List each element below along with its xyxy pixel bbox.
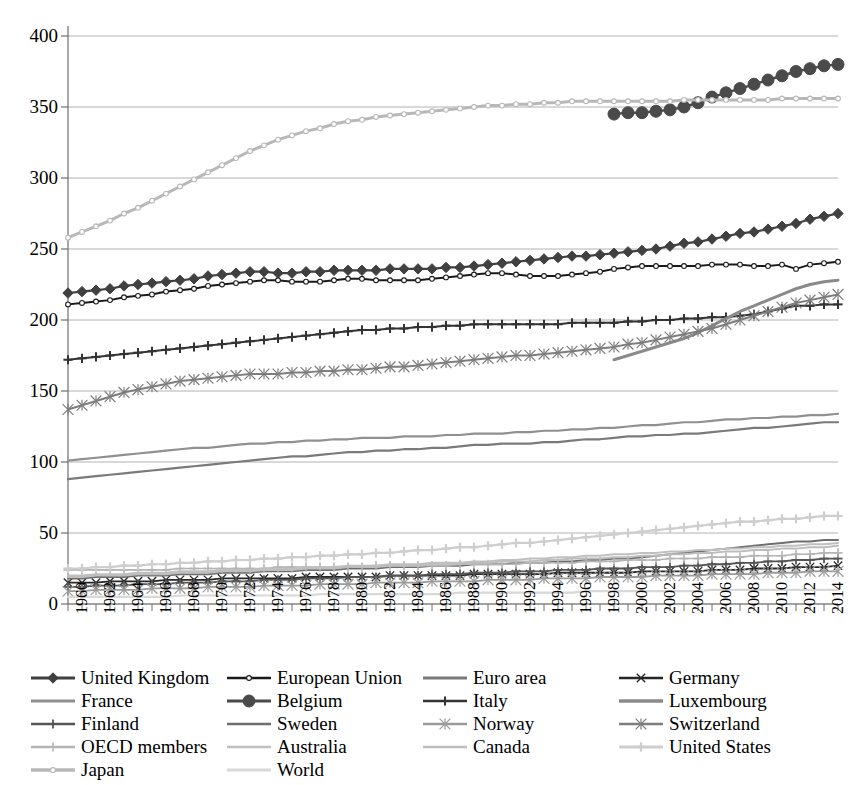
x-tick-label: 1976 xyxy=(298,582,314,614)
x-tick-label: 1972 xyxy=(242,582,258,614)
data-point xyxy=(780,96,785,101)
legend-label: United States xyxy=(669,737,771,756)
data-point xyxy=(514,272,519,277)
data-point xyxy=(248,149,253,154)
legend-swatch-icon xyxy=(422,717,468,731)
data-point xyxy=(497,540,506,549)
data-point xyxy=(805,550,814,559)
legend-item[interactable]: Belgium xyxy=(226,689,422,712)
y-tick-label: 300 xyxy=(10,168,58,187)
data-point xyxy=(108,218,113,223)
data-point xyxy=(220,163,225,168)
y-tick-label: 0 xyxy=(10,594,58,613)
data-point xyxy=(763,224,773,234)
data-point xyxy=(119,281,129,291)
data-point xyxy=(612,266,617,271)
data-point xyxy=(622,107,634,119)
legend-item[interactable]: United States xyxy=(618,735,828,758)
legend-item[interactable]: Switzerland xyxy=(618,712,828,735)
data-point xyxy=(385,264,395,274)
data-point xyxy=(220,282,225,287)
data-point xyxy=(584,99,589,104)
data-point xyxy=(791,550,800,559)
legend-item[interactable]: European Union xyxy=(226,666,422,689)
data-point xyxy=(206,170,211,175)
legend-swatch-icon xyxy=(30,694,76,708)
data-point xyxy=(693,521,702,530)
data-point xyxy=(664,104,676,116)
data-point xyxy=(245,555,254,564)
data-point xyxy=(63,564,72,573)
data-point xyxy=(276,278,281,283)
data-point xyxy=(416,278,421,283)
data-point xyxy=(570,272,575,277)
data-point xyxy=(693,554,702,563)
data-point xyxy=(416,110,421,115)
data-point xyxy=(161,345,170,354)
data-point xyxy=(147,278,157,288)
x-tick-label: 2014 xyxy=(830,582,846,614)
data-point xyxy=(623,528,632,537)
data-point xyxy=(636,742,645,751)
data-point xyxy=(654,99,659,104)
data-point xyxy=(581,251,591,261)
y-tick-label: 250 xyxy=(10,239,58,258)
legend-item[interactable]: Finland xyxy=(30,712,226,735)
legend-item[interactable]: United Kingdom xyxy=(30,666,226,689)
legend-item[interactable]: Canada xyxy=(422,735,618,758)
legend-item[interactable]: Sweden xyxy=(226,712,422,735)
legend-item[interactable]: Germany xyxy=(618,666,828,689)
legend-label: Norway xyxy=(473,714,534,733)
data-point xyxy=(553,320,562,329)
data-point xyxy=(777,514,786,523)
data-point xyxy=(721,319,732,330)
data-point xyxy=(304,279,309,284)
data-point xyxy=(360,117,365,122)
data-point xyxy=(581,533,590,542)
data-point xyxy=(721,518,730,527)
data-point xyxy=(650,105,662,117)
x-tick-label: 2006 xyxy=(718,582,734,614)
data-point xyxy=(80,230,85,235)
data-point xyxy=(259,335,268,344)
data-point xyxy=(273,554,282,563)
data-point xyxy=(833,300,842,309)
legend-swatch-icon xyxy=(618,740,664,754)
data-point xyxy=(623,317,632,326)
legend-item[interactable]: Luxembourg xyxy=(618,689,828,712)
legend-item[interactable]: OECD members xyxy=(30,735,226,758)
data-point xyxy=(287,332,296,341)
data-point xyxy=(808,262,813,267)
legend-label: Japan xyxy=(81,760,124,779)
legend-item[interactable]: Euro area xyxy=(422,666,618,689)
data-point xyxy=(734,83,746,95)
legend-item[interactable]: Norway xyxy=(422,712,618,735)
data-point xyxy=(500,271,505,276)
data-point xyxy=(357,265,367,275)
legend-item[interactable]: France xyxy=(30,689,226,712)
data-point xyxy=(343,265,353,275)
data-point xyxy=(472,105,477,110)
legend-swatch-icon xyxy=(618,717,664,731)
legend-item[interactable]: Australia xyxy=(226,735,422,758)
legend-item[interactable]: Italy xyxy=(422,689,618,712)
data-point xyxy=(329,328,338,337)
data-point xyxy=(427,323,436,332)
data-point xyxy=(402,278,407,283)
data-point xyxy=(752,98,757,103)
data-point xyxy=(247,675,252,680)
x-tick-label: 1960 xyxy=(74,582,90,614)
x-tick-label: 1980 xyxy=(354,582,370,614)
legend-swatch-icon xyxy=(30,671,76,685)
data-point xyxy=(651,315,660,324)
data-point xyxy=(763,551,772,560)
data-point xyxy=(374,115,379,120)
x-tick-label: 2010 xyxy=(774,582,790,614)
data-point xyxy=(556,274,561,279)
data-point xyxy=(766,264,771,269)
data-point xyxy=(469,320,478,329)
data-point xyxy=(329,265,339,275)
legend-item[interactable]: Japan xyxy=(30,758,226,781)
legend-item[interactable]: World xyxy=(226,758,422,781)
legend-label: United Kingdom xyxy=(81,668,209,687)
